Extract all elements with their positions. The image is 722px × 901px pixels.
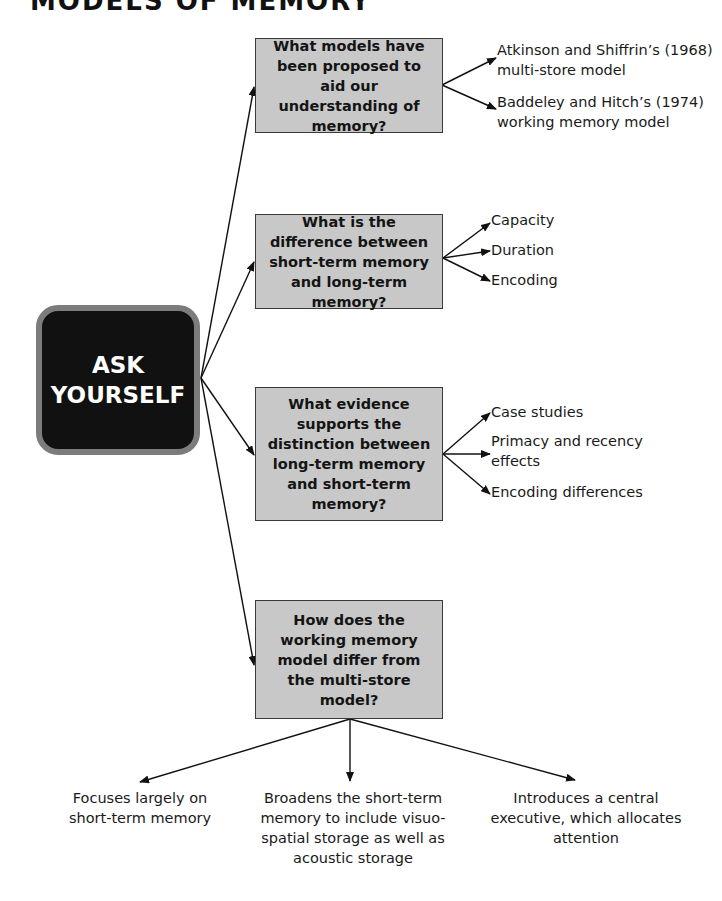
question-box-models: What models have been proposed to aid ou… (255, 38, 443, 133)
question-box-evidence: What evidence supports the distinction b… (255, 387, 443, 521)
answer-capacity: Capacity (491, 210, 554, 230)
answer-encoding-differences: Encoding differences (491, 482, 643, 502)
answer-case-studies: Case studies (491, 402, 583, 422)
answer-working-memory-model: Baddeley and Hitch’s (1974) working memo… (497, 92, 722, 132)
answer-broadens-stm: Broadens the short-term memory to includ… (258, 788, 448, 868)
answer-focuses-stm: Focuses largely on short-term memory (60, 788, 220, 828)
answer-duration: Duration (491, 240, 554, 260)
answer-encoding: Encoding (491, 270, 558, 290)
question-box-stm-ltm-difference: What is the difference between short-ter… (255, 214, 443, 309)
answer-primacy-recency: Primacy and recency effects (491, 431, 651, 471)
answer-multi-store-model: Atkinson and Shiffrin’s (1968) multi-sto… (497, 40, 722, 80)
answer-central-executive: Introduces a central executive, which al… (486, 788, 686, 848)
question-box-wmm-vs-msm: How does the working memory model differ… (255, 600, 443, 719)
ask-yourself-box: ASK YOURSELF (36, 305, 200, 455)
